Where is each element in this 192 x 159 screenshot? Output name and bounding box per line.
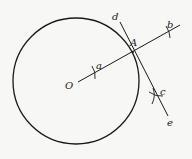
label-c: c <box>160 86 166 97</box>
label-A: A <box>129 37 137 48</box>
point-a-on-circle <box>132 51 134 53</box>
arc-mark-a <box>92 66 95 79</box>
label-e: e <box>167 117 173 128</box>
radius-extension-line <box>78 25 180 82</box>
tangent-construction-diagram: O A a b c d e <box>0 0 192 159</box>
label-O: O <box>65 80 73 91</box>
label-d: d <box>112 11 118 22</box>
label-a: a <box>96 60 102 71</box>
arc-mark-c2 <box>152 88 154 104</box>
circle <box>13 18 139 144</box>
label-b: b <box>167 19 173 30</box>
